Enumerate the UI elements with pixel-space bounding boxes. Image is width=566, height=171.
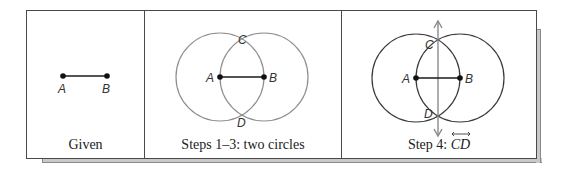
given-segment-diagram: A B	[27, 11, 144, 158]
point-b-label: B	[465, 72, 473, 86]
point-b-label: B	[102, 82, 110, 96]
point-a-label: A	[205, 71, 214, 85]
point-c-label: C	[425, 38, 434, 52]
point-a-dot	[217, 74, 223, 80]
point-b-dot	[261, 74, 267, 80]
panel-two-circles: A B C D Steps 1–3: two circles	[145, 11, 341, 158]
perpendicular-bisector-construction-figure: A B Given A B C D Steps 1–3: two circles	[0, 0, 566, 171]
caption-given: Given	[27, 137, 144, 153]
panel-given: A B Given	[27, 11, 144, 158]
point-b-dot	[104, 73, 110, 79]
line-cd-diagram: A B C D	[342, 11, 536, 158]
caption-two-circles: Steps 1–3: two circles	[145, 137, 341, 153]
two-circles-diagram: A B C D	[145, 11, 341, 158]
caption-step-prefix: Step 4:	[408, 137, 451, 152]
point-a-dot	[413, 75, 419, 81]
double-arrow-icon	[451, 131, 471, 137]
point-b-label: B	[269, 71, 277, 85]
point-b-dot	[457, 75, 463, 81]
point-d-label: D	[424, 107, 433, 121]
point-c-label: C	[238, 33, 247, 47]
point-a-label: A	[57, 82, 66, 96]
point-a-dot	[60, 73, 66, 79]
line-cd-label: CD	[451, 137, 470, 152]
line-cd-notation: CD	[451, 137, 470, 152]
point-a-label: A	[401, 72, 410, 86]
figure-frame: A B Given A B C D Steps 1–3: two circles	[26, 10, 537, 159]
caption-line-cd: Step 4: CD	[342, 137, 536, 153]
panel-line-cd: A B C D Step 4: CD	[342, 11, 536, 158]
point-d-label: D	[237, 116, 246, 130]
